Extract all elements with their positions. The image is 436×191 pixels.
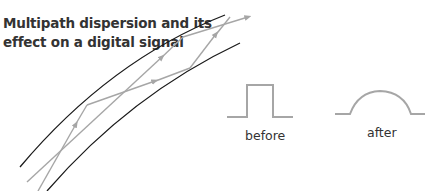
after-signal-pulse bbox=[335, 91, 425, 114]
before-label: before bbox=[245, 128, 285, 143]
ray-direct bbox=[27, 17, 248, 182]
fiber-lower-boundary bbox=[47, 43, 240, 191]
ray-zigzag bbox=[38, 17, 230, 191]
after-label: after bbox=[367, 125, 397, 140]
fiber-diagram bbox=[0, 0, 436, 191]
fiber-upper-boundary bbox=[20, 15, 225, 167]
before-signal-pulse bbox=[227, 85, 293, 117]
